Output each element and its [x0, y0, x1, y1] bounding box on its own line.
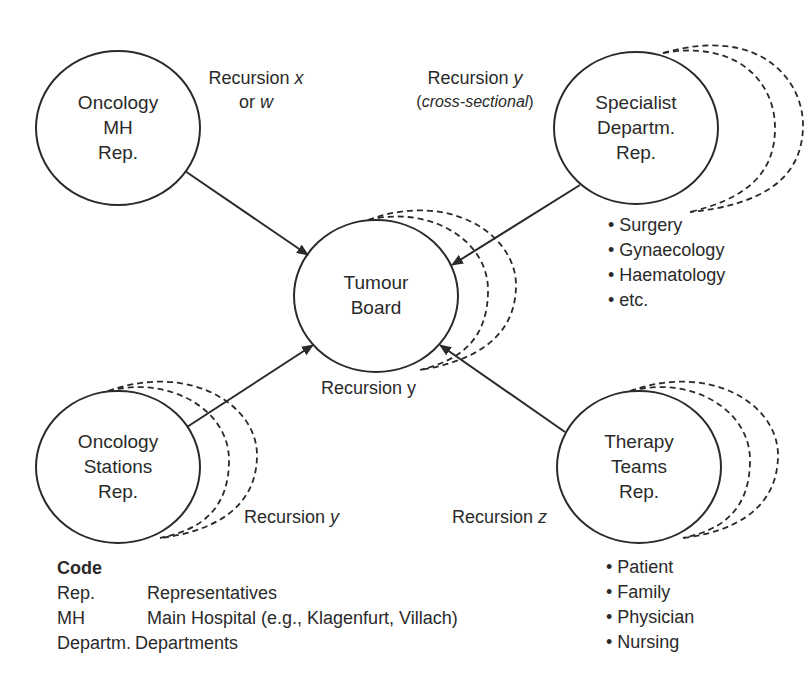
- legend-row: MH Main Hospital (e.g., Klagenfurt, Vill…: [57, 606, 458, 631]
- list-item: Family: [606, 580, 694, 605]
- arrow-oncology-mh-to-board: [185, 171, 308, 255]
- legend-row: Departm. Departments: [57, 631, 458, 656]
- label-tumour-board: Tumour Board: [316, 270, 436, 320]
- list-item: Patient: [606, 555, 694, 580]
- annotation-recursion-x-or-w: Recursion x or w: [196, 66, 316, 114]
- list-item: Surgery: [608, 213, 725, 238]
- annotation-recursion-y-stations: Recursion y: [244, 505, 339, 529]
- legend-row: Rep. Representatives: [57, 581, 458, 606]
- list-item: Nursing: [606, 630, 694, 655]
- list-item: etc.: [608, 288, 725, 313]
- list-item: Physician: [606, 605, 694, 630]
- label-specialist: Specialist Departm. Rep.: [576, 90, 696, 165]
- arrow-therapy-to-board: [440, 345, 565, 432]
- label-therapy-teams: Therapy Teams Rep.: [579, 429, 699, 504]
- annotation-recursion-y-board: Recursion y: [321, 376, 416, 400]
- arrow-specialist-to-board: [452, 185, 580, 265]
- list-item: Gynaecology: [608, 238, 725, 263]
- annotation-recursion-z-therapy: Recursion z: [452, 505, 547, 529]
- legend-title: Code: [57, 556, 458, 581]
- label-oncology-mh: Oncology MH Rep.: [58, 90, 178, 165]
- arrow-stations-to-board: [187, 345, 313, 427]
- specialist-department-list: Surgery Gynaecology Haematology etc.: [608, 213, 725, 313]
- therapy-team-list: Patient Family Physician Nursing: [606, 555, 694, 655]
- label-oncology-stations: Oncology Stations Rep.: [58, 429, 178, 504]
- annotation-recursion-y-cross-sectional: Recursion y (cross-sectional): [400, 66, 550, 114]
- code-legend: Code Rep. Representatives MH Main Hospit…: [57, 556, 458, 656]
- list-item: Haematology: [608, 263, 725, 288]
